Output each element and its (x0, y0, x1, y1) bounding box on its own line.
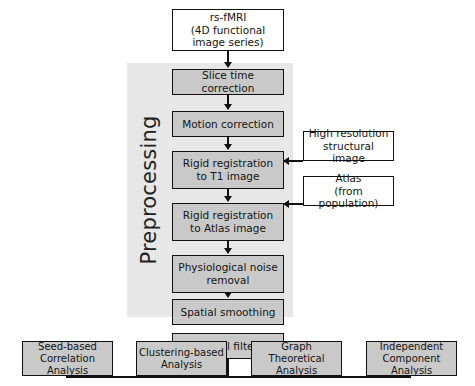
arrowhead-atlas-to-atlas-registration (283, 200, 289, 208)
node-atlas-from-population: Atlas (from population) (303, 176, 394, 206)
node-spatial-smoothing-line1: Spatial smoothing (180, 306, 275, 319)
node-rs-fmri-line1: rs-fMRI (191, 11, 265, 24)
node-motion-correction: Motion correction (172, 111, 284, 137)
node-rigid-registration-t1: Rigid registration to T1 image (172, 151, 284, 189)
node-rs-fmri-source: rs-fMRI (4D functional image series) (172, 9, 284, 51)
node-clustering-based-analysis-line2: Analysis (139, 359, 224, 371)
node-spatial-smoothing: Spatial smoothing (172, 299, 284, 325)
node-independent-component-analysis-line1: Independent (369, 341, 454, 353)
arrowhead-step1-to-step2 (224, 104, 232, 110)
node-physiological-noise-removal-line2: removal (178, 274, 277, 287)
arrowhead-step5-to-step6 (224, 292, 232, 298)
node-physiological-noise-removal-line1: Physiological noise (178, 261, 277, 274)
node-seed-based-correlation-analysis-line1: Seed-based (25, 341, 110, 353)
node-seed-based-correlation-analysis-line2: Correlation Analysis (25, 353, 110, 377)
node-rigid-registration-atlas-line1: Rigid registration (183, 209, 273, 222)
node-atlas-from-population-line2: (from population) (306, 185, 391, 210)
node-independent-component-analysis-line2: Component Analysis (369, 353, 454, 377)
analysis-distribution-bus (66, 376, 411, 378)
node-motion-correction-line1: Motion correction (182, 118, 274, 131)
node-rigid-registration-t1-line1: Rigid registration (183, 157, 273, 170)
preprocessing-group-label: Preprocessing (127, 63, 171, 317)
node-seed-based-correlation-analysis: Seed-based Correlation Analysis (22, 341, 113, 376)
flowchart-canvas: Preprocessing rs-fMRI (4D functional ima… (0, 0, 475, 386)
node-high-resolution-structural-image-line2: structural image (306, 140, 391, 165)
node-slice-time-correction: Slice time correction (172, 69, 284, 95)
node-physiological-noise-removal: Physiological noise removal (172, 255, 284, 293)
node-clustering-based-analysis-line1: Clustering-based (139, 347, 224, 359)
connector-temporal-filtering-to-bus (227, 359, 229, 377)
arrowhead-step4-to-step5 (224, 248, 232, 254)
node-rs-fmri-line3: image series) (191, 36, 265, 49)
arrowhead-step3-to-step4 (224, 196, 232, 202)
node-graph-theoretical-analysis: Graph Theoretical Analysis (251, 341, 342, 376)
arrowhead-source-to-step1 (224, 62, 232, 68)
node-rigid-registration-atlas-line2: to Atlas image (183, 222, 273, 235)
node-graph-theoretical-analysis-line1: Graph Theoretical (254, 341, 339, 365)
node-high-resolution-structural-image: High resolution structural image (303, 131, 394, 161)
node-graph-theoretical-analysis-line2: Analysis (254, 365, 339, 377)
node-clustering-based-analysis: Clustering-based Analysis (136, 341, 227, 376)
arrowhead-structural-to-t1-registration (283, 157, 289, 165)
node-rigid-registration-atlas: Rigid registration to Atlas image (172, 203, 284, 241)
node-atlas-from-population-line1: Atlas (306, 172, 391, 185)
node-slice-time-correction-line1: Slice time correction (175, 69, 281, 94)
node-independent-component-analysis: Independent Component Analysis (366, 341, 457, 376)
node-rs-fmri-line2: (4D functional (191, 24, 265, 37)
node-rigid-registration-t1-line2: to T1 image (183, 170, 273, 183)
node-high-resolution-structural-image-line1: High resolution (306, 127, 391, 140)
arrowhead-step2-to-step3 (224, 144, 232, 150)
